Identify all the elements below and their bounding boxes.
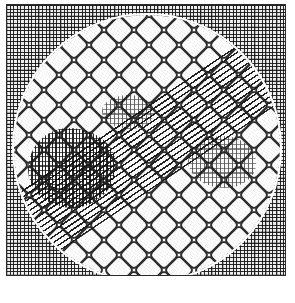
figure-root [0,0,295,303]
caption-strip [0,276,295,303]
diamond-lattice-overlay [14,15,280,281]
circular-disc [14,15,280,281]
